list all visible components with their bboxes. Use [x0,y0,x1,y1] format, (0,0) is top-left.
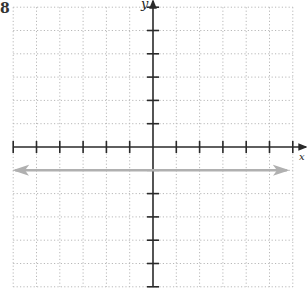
axes [13,1,306,287]
coordinate-plane [0,0,307,294]
y-axis-label: y [141,0,148,11]
x-axis-label: x [299,151,305,162]
